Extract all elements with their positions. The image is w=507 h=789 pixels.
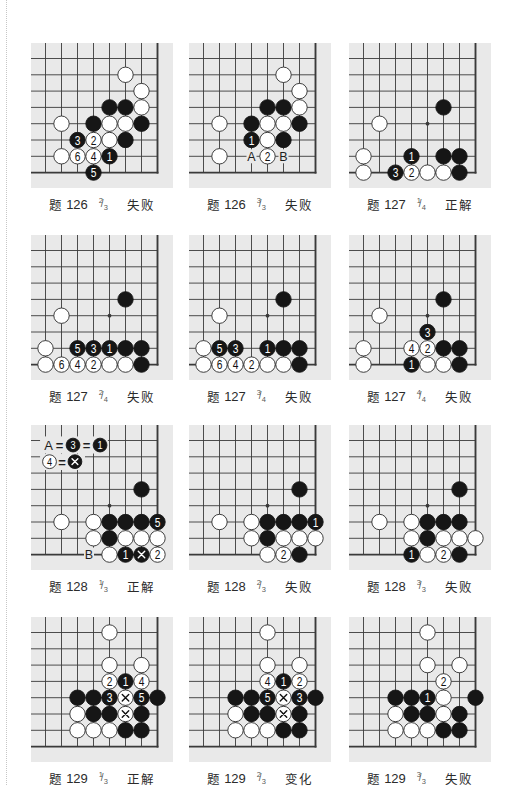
- black-stone: [276, 723, 291, 738]
- point-label-a: A: [247, 149, 257, 164]
- move-number: 5: [155, 516, 161, 529]
- black-stone: [452, 723, 467, 738]
- white-stone: [468, 531, 483, 546]
- black-stone: [276, 100, 291, 115]
- problem-label: 题: [367, 195, 380, 214]
- white-stone: 4: [404, 341, 419, 356]
- move-number: 1: [249, 134, 255, 147]
- white-stone: [86, 514, 101, 529]
- move-number: 6: [59, 359, 65, 372]
- black-stone: [292, 723, 307, 738]
- black-stone: [452, 149, 467, 164]
- black-stone: 5: [70, 341, 85, 356]
- white-stone: [244, 514, 259, 529]
- white-stone: [212, 308, 227, 323]
- problem-label: 题: [207, 769, 220, 788]
- problem-number: 126: [224, 197, 246, 212]
- black-stone: [404, 690, 419, 705]
- black-stone: [150, 690, 165, 705]
- white-stone: 6: [54, 357, 69, 372]
- white-stone: [436, 531, 451, 546]
- white-stone: 4: [70, 357, 85, 372]
- diagram-caption: 题 127 2/4 失败: [31, 388, 173, 405]
- white-stone: [420, 723, 435, 738]
- go-diagram: 3421 题 127 4/4 失败: [349, 235, 491, 407]
- problem-label: 题: [49, 769, 62, 788]
- move-number: 1: [313, 516, 319, 529]
- diagram-caption: 题 127 4/4 失败: [349, 388, 491, 405]
- go-diagram: 531642 题 127 2/4 失败: [31, 235, 173, 407]
- white-stone: [420, 625, 435, 640]
- white-stone: [356, 341, 371, 356]
- diagram-caption: 题 128 1/3 正解: [31, 578, 173, 595]
- go-board: 21: [349, 617, 491, 762]
- black-stone: [292, 706, 307, 721]
- diagram-caption: 题 126 3/3 失败: [189, 196, 331, 213]
- board-canvas: 21435: [31, 617, 173, 762]
- step-fraction: 3/4: [257, 390, 266, 403]
- diagram-caption: 题 129 1/3 正解: [31, 770, 173, 787]
- go-board: BA=3=14=512: [31, 425, 173, 570]
- white-stone: [228, 723, 243, 738]
- move-number: 1: [123, 675, 129, 688]
- white-stone: [118, 690, 133, 705]
- go-diagram: AB12 题 126 3/3 失败: [189, 43, 331, 215]
- diagram-caption: 题 129 2/3 变化: [189, 770, 331, 787]
- step-fraction: 1/3: [99, 772, 108, 785]
- white-stone: [356, 165, 371, 180]
- black-stone: 1: [404, 357, 419, 372]
- white-stone: [372, 308, 387, 323]
- problem-label: 题: [49, 195, 62, 214]
- move-number: 2: [425, 342, 431, 355]
- black-stone: 1: [102, 341, 117, 356]
- black-stone: [420, 531, 435, 546]
- white-stone: [118, 67, 133, 82]
- move-number: 6: [75, 150, 81, 163]
- white-stone: 4: [228, 357, 243, 372]
- move-number: 5: [217, 342, 223, 355]
- white-stone: 2: [86, 132, 101, 147]
- move-number: 2: [409, 167, 415, 180]
- svg-text:A: A: [247, 150, 256, 164]
- white-stone: [70, 706, 85, 721]
- go-diagram: BA=3=14=512 题 128 1/3 正解: [31, 425, 173, 597]
- white-stone: [404, 723, 419, 738]
- black-stone: 1: [244, 132, 259, 147]
- move-number: 1: [409, 359, 415, 372]
- black-stone: [276, 292, 291, 307]
- step-fraction: 2/3: [99, 198, 108, 211]
- move-number: 3: [75, 134, 81, 147]
- white-stone: [292, 657, 307, 672]
- black-stone: 5: [150, 514, 165, 529]
- go-board: AB12: [189, 43, 331, 188]
- star-point-icon: [426, 314, 430, 318]
- black-stone: [134, 547, 149, 562]
- move-number: 2: [265, 150, 271, 163]
- white-stone: [134, 83, 149, 98]
- black-stone: [436, 723, 451, 738]
- result-label: 失败: [445, 769, 473, 788]
- black-stone: [134, 723, 149, 738]
- white-stone: [388, 723, 403, 738]
- go-diagram: 326415 题 126 2/3 失败: [31, 43, 173, 215]
- board-canvas: 21: [349, 617, 491, 762]
- move-number: 3: [233, 342, 239, 355]
- white-stone: [244, 723, 259, 738]
- white-stone: [308, 531, 323, 546]
- star-point-icon: [108, 314, 112, 318]
- move-number: 3: [393, 167, 399, 180]
- move-number: 4: [409, 342, 415, 355]
- problem-number: 128: [384, 579, 406, 594]
- black-stone: [134, 341, 149, 356]
- equivalence-note: 4=: [40, 454, 85, 470]
- white-stone: [388, 706, 403, 721]
- white-stone: [260, 547, 275, 562]
- star-point-icon: [426, 504, 430, 508]
- step-fraction: 2/3: [257, 580, 266, 593]
- step-fraction: 2/4: [99, 390, 108, 403]
- black-stone: [244, 690, 259, 705]
- star-point-icon: [108, 504, 112, 508]
- black-stone: [134, 514, 149, 529]
- black-stone: 5: [212, 341, 227, 356]
- white-stone: 6: [212, 357, 227, 372]
